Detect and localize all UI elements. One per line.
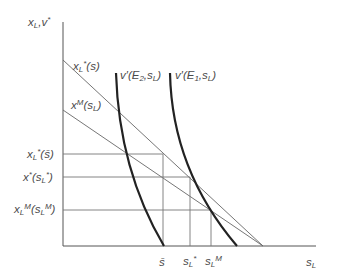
curve-v-E1 — [170, 73, 237, 246]
curve-v-E2 — [116, 73, 164, 246]
label-v-E1: v′(E1,sL) — [175, 70, 216, 83]
x-axis-label: sL — [306, 257, 316, 270]
ytick-xLM: xLM(sLM) — [14, 203, 55, 217]
y-axis-label: xL,v* — [28, 16, 50, 30]
label-xL-star-s: xL*(s) — [73, 60, 100, 74]
diagram-canvas — [0, 0, 346, 280]
ytick-x-star: x*(sL*) — [23, 171, 53, 185]
ytick-xL-sbar: xL*(s̄) — [27, 148, 54, 162]
xtick-sL-star: sL* — [183, 255, 196, 269]
label-v-E2: v′(E2,sL) — [120, 70, 161, 83]
xtick-sL-M: sLM — [205, 255, 222, 269]
label-xM-sL: xM(sL) — [71, 99, 101, 113]
xtick-sbar: s̄ — [159, 257, 165, 269]
